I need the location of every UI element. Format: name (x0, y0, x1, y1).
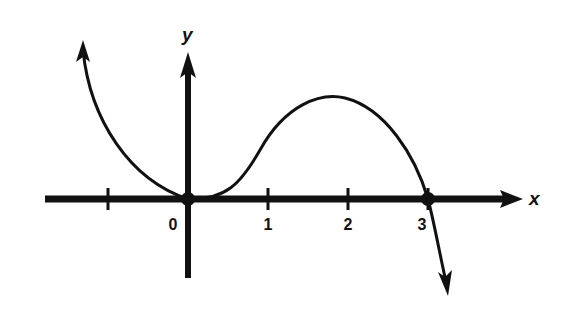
marked-point (181, 192, 195, 206)
axes (45, 52, 523, 278)
marked-point (421, 192, 435, 206)
labels: x y (181, 24, 541, 209)
x-tick-label: 0 (169, 216, 178, 233)
x-tick-label: 3 (418, 216, 427, 233)
function-graph: 0123 x y (0, 0, 573, 312)
function-curve (83, 50, 446, 282)
y-axis-label: y (181, 24, 194, 45)
x-ticks: 0123 (108, 188, 428, 233)
x-axis-label: x (528, 188, 541, 209)
curve-layer (76, 40, 452, 296)
x-tick-label: 2 (344, 216, 353, 233)
x-tick-label: 1 (264, 216, 273, 233)
